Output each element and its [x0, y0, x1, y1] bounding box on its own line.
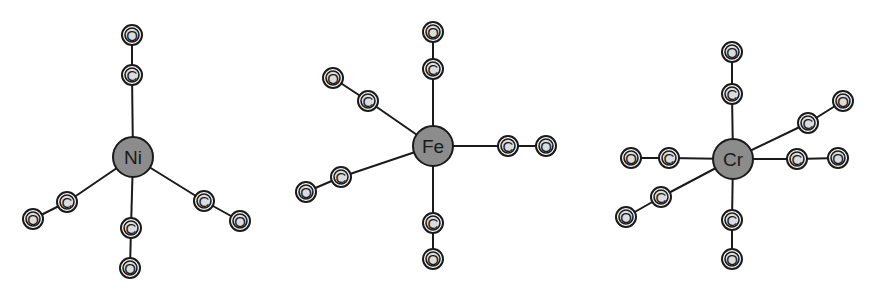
oxygen-atom-label: O	[837, 93, 849, 110]
oxygen-atom-label: O	[620, 209, 632, 226]
oxygen-atom: O	[833, 91, 853, 111]
oxygen-atom: O	[616, 207, 636, 227]
oxygen-atom: O	[23, 209, 43, 229]
carbonyl-complexes-diagram: COCOCOCONiCOCOCOCOCOFeCOCOCOCOCOCOCr	[0, 0, 870, 295]
oxygen-atom: O	[323, 68, 343, 88]
chromium-hexacarbonyl: COCOCOCOCOCOCr	[616, 42, 853, 269]
oxygen-atom: O	[122, 25, 142, 45]
oxygen-atom: O	[722, 42, 742, 62]
oxygen-atom-label: O	[126, 27, 138, 44]
oxygen-atom-label: O	[427, 251, 439, 268]
oxygen-atom: O	[828, 148, 848, 168]
oxygen-atom: O	[621, 148, 641, 168]
oxygen-atom-label: O	[625, 150, 637, 167]
carbon-atom: C	[331, 167, 351, 187]
molecules-layer: COCOCOCONiCOCOCOCOCOFeCOCOCOCOCOCOCr	[23, 22, 853, 278]
carbon-atom: C	[423, 59, 443, 79]
oxygen-atom-label: O	[300, 184, 312, 201]
carbon-atom-label: C	[664, 150, 675, 167]
oxygen-atom: O	[722, 249, 742, 269]
oxygen-atom-label: O	[124, 260, 136, 277]
carbon-atom-label: C	[727, 86, 738, 103]
carbon-atom-label: C	[727, 212, 738, 229]
carbon-atom: C	[122, 65, 142, 85]
carbon-atom: C	[659, 148, 679, 168]
metal-atom: Fe	[413, 126, 453, 166]
carbon-atom-label: C	[656, 189, 667, 206]
carbon-atom: C	[194, 191, 214, 211]
metal-atom-label: Fe	[422, 136, 444, 157]
iron-pentacarbonyl: COCOCOCOCOFe	[296, 22, 556, 269]
carbon-atom-label: C	[336, 169, 347, 186]
oxygen-atom-label: O	[327, 70, 339, 87]
oxygen-atom-label: O	[27, 211, 39, 228]
oxygen-atom-label: O	[234, 213, 246, 230]
carbon-atom: C	[358, 91, 378, 111]
carbon-atom: C	[798, 113, 818, 133]
carbon-atom: C	[722, 210, 742, 230]
oxygen-atom-label: O	[540, 138, 552, 155]
oxygen-atom: O	[423, 249, 443, 269]
carbon-atom-label: C	[62, 194, 73, 211]
oxygen-atom-label: O	[726, 44, 738, 61]
oxygen-atom-label: O	[427, 24, 439, 41]
carbon-atom-label: C	[127, 67, 138, 84]
carbon-atom-label: C	[503, 138, 514, 155]
oxygen-atom: O	[536, 136, 556, 156]
metal-atom: Cr	[713, 139, 753, 179]
nickel-tetracarbonyl: COCOCOCONi	[23, 25, 250, 278]
oxygen-atom: O	[423, 22, 443, 42]
carbon-atom: C	[121, 218, 141, 238]
oxygen-atom: O	[296, 182, 316, 202]
carbon-atom-label: C	[363, 93, 374, 110]
carbon-atom: C	[423, 213, 443, 233]
oxygen-atom-label: O	[726, 251, 738, 268]
carbon-atom-label: C	[792, 151, 803, 168]
oxygen-atom: O	[120, 258, 140, 278]
carbon-atom: C	[722, 84, 742, 104]
carbon-atom-label: C	[428, 215, 439, 232]
carbon-atom-label: C	[199, 193, 210, 210]
carbon-atom: C	[787, 149, 807, 169]
carbon-atom: C	[651, 187, 671, 207]
carbon-atom: C	[498, 136, 518, 156]
metal-atom-label: Cr	[723, 149, 744, 170]
oxygen-atom: O	[230, 211, 250, 231]
oxygen-atom-label: O	[832, 150, 844, 167]
carbon-atom-label: C	[126, 220, 137, 237]
carbon-atom-label: C	[803, 115, 814, 132]
carbon-atom: C	[57, 192, 77, 212]
metal-atom-label: Ni	[124, 147, 142, 168]
metal-atom: Ni	[113, 137, 153, 177]
carbon-atom-label: C	[428, 61, 439, 78]
